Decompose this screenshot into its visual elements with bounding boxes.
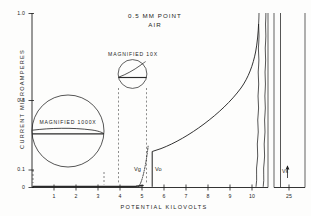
inset-large-curve xyxy=(32,128,103,133)
y-axis-title: CURRENT MICROAMPERES xyxy=(19,39,25,159)
x-tick-label-2: 2 xyxy=(68,193,84,199)
x-tick-label-8: 8 xyxy=(200,193,216,199)
x-tick-label-3: 3 xyxy=(90,193,106,199)
x-tick-label-6: 6 xyxy=(156,193,172,199)
x-tick-label-4: 4 xyxy=(112,193,128,199)
x-tick-label-7: 7 xyxy=(178,193,194,199)
x-tick-label-9: 9 xyxy=(222,193,238,199)
marker-label-vo: Vo xyxy=(155,166,162,172)
inset-small-projection-lines xyxy=(119,88,147,184)
inset-small-caption: MAGNIFIED 10X xyxy=(103,51,163,57)
inset-large-circle xyxy=(32,95,104,167)
inset-large-projection-lines xyxy=(33,170,104,185)
x-tick-label-10: 10 xyxy=(244,193,260,199)
y-ticks xyxy=(29,14,35,188)
y-tick-label-1-0: 1.0 xyxy=(6,10,25,16)
figure-container: 0.5 MM POINT AIR 1.0 0.5 0.1 0 CURRENT M… xyxy=(0,0,311,216)
x-tick-label-1: 1 xyxy=(46,193,62,199)
marker-label-vg: Vg xyxy=(134,166,141,172)
inset-large-caption: MAGNIFIED 1000X xyxy=(33,119,103,125)
inset-magnified-10x xyxy=(118,60,147,89)
plot-canvas xyxy=(0,0,311,216)
y-tick-label-0: 0 xyxy=(6,184,25,190)
x-axis-title: POTENTIAL KILOVOLTS xyxy=(104,204,224,210)
marker-label-vs: Vs xyxy=(282,168,288,174)
saturated-branch-right xyxy=(263,13,266,187)
y-tick-label-0-1: 0.1 xyxy=(6,166,25,172)
x-tick-label-5: 5 xyxy=(134,193,150,199)
figure-title-line-1: 0.5 MM POINT xyxy=(95,12,215,19)
series-main-characteristic xyxy=(152,24,258,152)
inset-magnified-1000x xyxy=(32,95,104,167)
baseline-current-trace xyxy=(33,186,143,187)
x-tick-label-25: 25 xyxy=(281,193,297,199)
figure-title-line-2: AIR xyxy=(95,21,215,28)
